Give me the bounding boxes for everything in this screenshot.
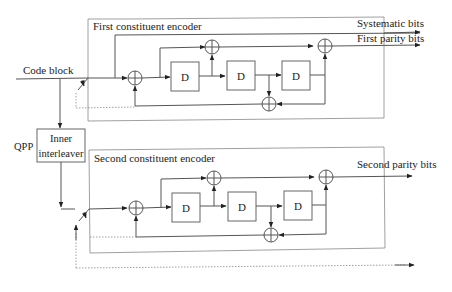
systematic-bits-label: Systematic bits bbox=[357, 17, 424, 29]
turbo-encoder-diagram: First constituent encoder D D D bbox=[0, 0, 452, 292]
svg-text:Inner: Inner bbox=[50, 133, 73, 144]
svg-text:D: D bbox=[182, 202, 190, 214]
encoder2-title: Second constituent encoder bbox=[94, 152, 215, 164]
code-block-label: Code block bbox=[23, 64, 74, 76]
encoder1-title: First constituent encoder bbox=[93, 20, 202, 32]
second-parity-bits-label: Second parity bits bbox=[357, 158, 436, 170]
svg-text:D: D bbox=[237, 70, 245, 82]
svg-text:D: D bbox=[292, 70, 300, 82]
code-block-input bbox=[16, 78, 88, 79]
svg-text:D: D bbox=[181, 71, 189, 83]
svg-text:interleaver: interleaver bbox=[39, 148, 84, 159]
svg-text:D: D bbox=[238, 201, 246, 213]
qpp-label: QPP bbox=[14, 141, 33, 152]
svg-text:D: D bbox=[294, 200, 302, 212]
switch-2 bbox=[79, 209, 89, 221]
first-parity-bits-label: First parity bits bbox=[357, 32, 424, 44]
